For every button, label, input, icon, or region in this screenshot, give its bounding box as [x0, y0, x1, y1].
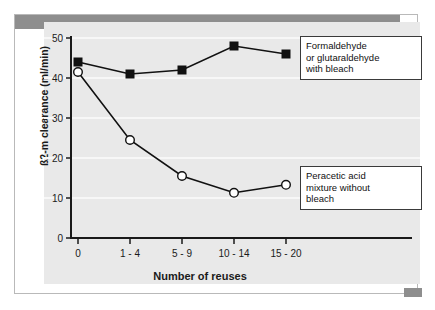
data-point-marker [74, 58, 82, 66]
data-point-marker [282, 50, 290, 58]
x-tick-label: 5 - 9 [172, 248, 192, 259]
y-tick-label: 10 [52, 193, 64, 204]
annotation-peracetic: Peracetic acid mixture without bleach [300, 166, 422, 210]
y-tick-label: 50 [52, 33, 64, 44]
x-tick-label: 15 - 20 [270, 248, 302, 259]
y-tick-label: 20 [52, 153, 64, 164]
series-group [74, 42, 291, 197]
y-tick-group: 01020304050 [52, 33, 71, 244]
data-point-marker [282, 181, 291, 190]
data-point-marker [74, 68, 83, 77]
data-point-marker [126, 136, 135, 145]
data-point-marker [126, 70, 134, 78]
y-tick-label: 40 [52, 73, 64, 84]
chart-figure: ß2-m clearance (ml/min) Number of reuses… [0, 0, 435, 310]
data-point-marker [178, 172, 187, 181]
y-tick-label: 0 [57, 233, 63, 244]
x-tick-label: 0 [75, 248, 81, 259]
x-tick-group: 01 - 45 - 910 - 1415 - 20 [75, 238, 302, 259]
y-tick-label: 30 [52, 113, 64, 124]
data-point-marker [178, 66, 186, 74]
data-point-marker [230, 42, 238, 50]
x-tick-label: 10 - 14 [218, 248, 250, 259]
x-tick-label: 1 - 4 [120, 248, 140, 259]
data-point-marker [230, 189, 239, 198]
annotation-formaldehyde: Formaldehyde or glutaraldehyde with blea… [300, 36, 422, 80]
